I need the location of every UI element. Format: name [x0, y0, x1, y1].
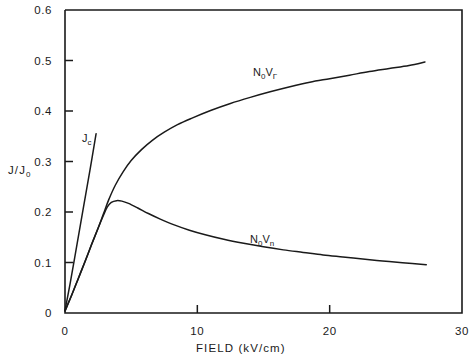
y-axis-ticks [65, 61, 73, 263]
y-axis-tick-labels: 00.10.20.30.40.50.6 [34, 4, 52, 319]
annotation-n0-vn-v-subscript: n [270, 239, 274, 248]
annotation-n0-vgamma: N0VΓ [253, 66, 278, 81]
line-chart: 00.10.20.30.40.50.6 0102030 J/J0 FIELD (… [0, 0, 470, 359]
annotation-n0-vgamma-v-subscript: Γ [273, 72, 278, 81]
y-tick-label: 0.5 [34, 55, 52, 67]
curve-n0-v-n [65, 201, 426, 311]
y-tick-label: 0.2 [34, 206, 52, 218]
x-tick-label: 0 [62, 325, 69, 337]
x-tick-label: 20 [323, 325, 337, 337]
curve-n0-v-gamma [65, 62, 425, 311]
y-axis-title: J/J0 [8, 164, 32, 179]
annotation-n0-vn-n: N [250, 233, 258, 245]
y-tick-label: 0.1 [34, 257, 52, 269]
x-tick-label: 30 [455, 325, 469, 337]
y-tick-label: 0.4 [34, 105, 52, 117]
y-tick-label: 0 [45, 307, 52, 319]
annotation-jc-subscript: c [88, 138, 92, 147]
annotation-n0-vgamma-n: N [253, 66, 261, 78]
data-curves [65, 62, 426, 311]
y-axis-title-subscript: 0 [26, 170, 32, 179]
x-axis-ticks [197, 305, 329, 313]
y-tick-label: 0.6 [34, 4, 52, 16]
x-tick-label: 10 [190, 325, 204, 337]
x-axis-tick-labels: 0102030 [62, 325, 470, 337]
curve-jc [65, 134, 96, 311]
x-axis-title: FIELD (kV/cm) [196, 342, 286, 354]
y-tick-label: 0.3 [34, 156, 52, 168]
plot-frame [65, 10, 462, 313]
y-axis-title-main: J/J [8, 164, 26, 176]
annotation-jc: Jc [82, 132, 92, 147]
figure-container: 00.10.20.30.40.50.6 0102030 J/J0 FIELD (… [0, 0, 470, 359]
